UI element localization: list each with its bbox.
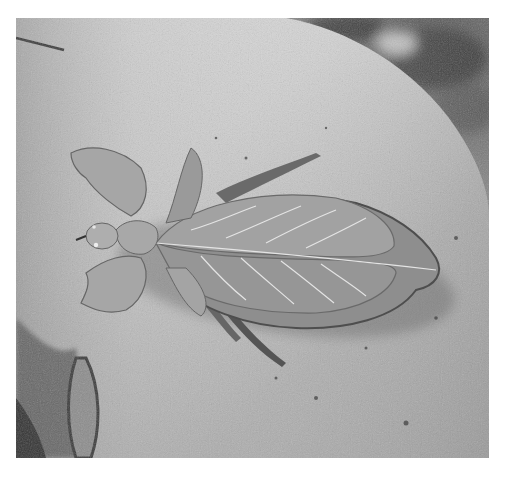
leaf-insect-photo: [16, 18, 489, 458]
insect-eye: [94, 243, 98, 247]
photo: [16, 18, 489, 458]
insect-head: [86, 223, 118, 249]
